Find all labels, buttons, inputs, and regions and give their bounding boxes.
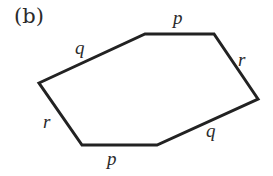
edge-label-lower-right: q [206, 121, 216, 140]
edge-label-upper-left: q [75, 38, 85, 57]
edge-label-upper-right: r [238, 50, 245, 69]
edge-label-lower-left: r [43, 112, 50, 131]
edge-label-top: p [173, 8, 183, 27]
panel-label: (b) [14, 6, 44, 27]
hexagon-outline [39, 34, 258, 145]
hexagon-figure: (b) q p r q p r [0, 0, 273, 176]
edge-label-bottom: p [107, 149, 117, 168]
